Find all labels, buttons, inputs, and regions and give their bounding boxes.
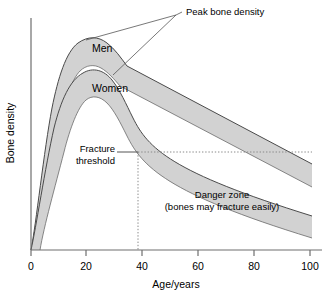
x-axis-ticks [31, 250, 310, 256]
chart-canvas: 0 20 40 60 80 100 Age/years Bone density… [0, 0, 329, 292]
bone-density-chart: 0 20 40 60 80 100 Age/years Bone density… [0, 0, 329, 292]
danger-zone-label: Danger zone (bones may fracture easily) [165, 189, 280, 212]
fracture-threshold-label-line2: threshold [76, 155, 115, 166]
x-tick-label-60: 60 [192, 260, 204, 272]
x-tick-label-20: 20 [80, 260, 92, 272]
x-tick-label-80: 80 [248, 260, 260, 272]
leader-line-stub [176, 12, 182, 15]
y-axis-title: Bone density [4, 102, 16, 163]
x-tick-label-0: 0 [28, 260, 34, 272]
danger-zone-label-line1: Danger zone [195, 189, 249, 200]
x-axis-title: Age/years [152, 278, 199, 290]
peak-bone-density-label: Peak bone density [186, 6, 264, 17]
danger-zone-label-line2: (bones may fracture easily) [165, 201, 280, 212]
fracture-threshold-label: Fracture threshold [76, 143, 115, 166]
series-label-women: Women [92, 82, 128, 94]
x-tick-label-100: 100 [301, 260, 319, 272]
x-tick-label-40: 40 [136, 260, 148, 272]
x-tick-labels: 0 20 40 60 80 100 [28, 260, 319, 272]
series-label-men: Men [92, 42, 113, 54]
fracture-threshold-label-line1: Fracture [80, 143, 115, 154]
